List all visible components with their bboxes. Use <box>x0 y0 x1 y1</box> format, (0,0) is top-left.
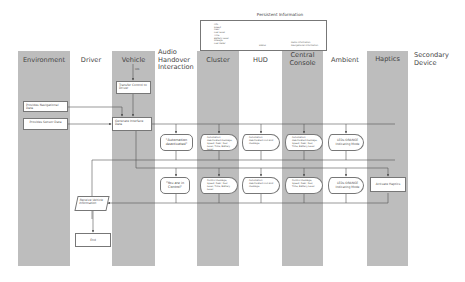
generate-interface-box[interactable]: Generate Interface Data <box>112 117 152 131</box>
ambient-display-1[interactable]: LEDs ORANGE Indicating Mode <box>328 134 364 151</box>
audio-you-are-in-control[interactable]: "You are in Control" <box>160 177 190 194</box>
vehicle-start-label: tdb <box>135 68 139 71</box>
activate-haptics-box[interactable]: Activate Haptics <box>370 177 406 192</box>
cluster-display-2[interactable]: Control message, Speed, Gear, Fuel Level… <box>200 177 238 194</box>
hud-display-1[interactable]: Automation deactivated icon and message <box>242 134 280 151</box>
transfer-control-box[interactable]: Transfer Control to Driver <box>116 81 151 94</box>
receive-vehicle-info-box[interactable]: Receive Vehicle Information <box>74 196 109 211</box>
ambient-display-2[interactable]: LEDs ORANGE Indicating Mode <box>328 177 364 194</box>
console-display-2[interactable]: Control message, Speed, Gear, Fuel, Time… <box>285 177 323 194</box>
cluster-display-1[interactable]: Automation deactivated message, Speed, G… <box>200 134 238 151</box>
provide-nav-data-box[interactable]: Provides Navigational Data <box>23 101 68 112</box>
audio-automation-deactivated[interactable]: "Automation deactivated" <box>160 134 193 151</box>
console-display-1[interactable]: Automation deactivated message, Speed, G… <box>285 134 323 151</box>
end-box[interactable]: End <box>75 233 111 247</box>
hud-display-2[interactable]: Automation deactivated icon and message <box>242 177 280 194</box>
provide-sensor-data-box[interactable]: Provides Sensor Data <box>23 118 68 130</box>
